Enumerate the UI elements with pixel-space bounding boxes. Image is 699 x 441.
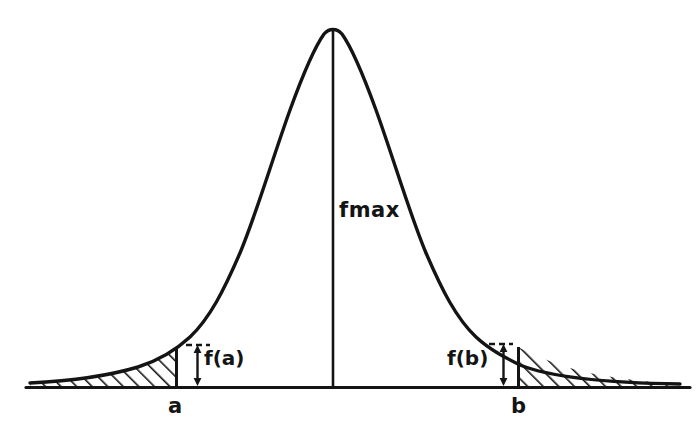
f-a-label: f(a) (204, 346, 244, 370)
x-tick-label-b: b (511, 394, 526, 418)
f-a-measure-arrow (194, 345, 202, 386)
f-b-label: f(b) (447, 346, 488, 370)
f-b-measure-arrow (500, 344, 508, 386)
fmax-label: fmax (339, 198, 400, 222)
x-tick-label-a: a (168, 394, 182, 418)
bell-curve-figure: fmax f(a) f(b) a b (0, 0, 699, 441)
